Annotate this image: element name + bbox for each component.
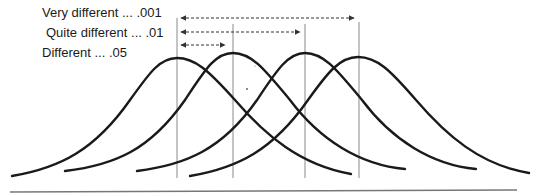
baseline <box>10 190 517 192</box>
curve-2 <box>65 53 405 171</box>
diagram-canvas <box>0 0 537 195</box>
speck <box>254 65 255 66</box>
curve-1 <box>12 58 351 176</box>
bell-curves <box>12 53 529 176</box>
speck <box>246 88 248 90</box>
difference-arrows <box>181 18 354 45</box>
mean-lines <box>177 18 359 178</box>
significance-diagram: Very different ... .001 Quite different … <box>0 0 537 195</box>
